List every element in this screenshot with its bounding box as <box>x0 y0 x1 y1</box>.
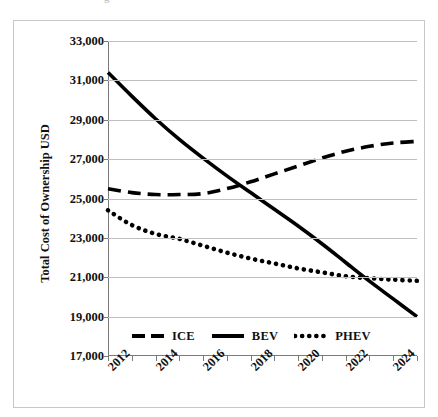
gridline <box>108 199 417 200</box>
plot-area <box>108 41 417 356</box>
line-chart: Total Cost of Ownership USD 33,00031,000… <box>0 0 438 417</box>
legend-label: BEV <box>252 329 278 344</box>
y-axis-tick-label: 17,000 <box>42 350 104 363</box>
gridline <box>108 159 417 160</box>
y-axis-tick-label: 19,000 <box>42 311 104 324</box>
legend-label: PHEV <box>335 329 371 344</box>
y-axis-tick-label: 25,000 <box>42 193 104 206</box>
y-axis-tick <box>103 277 108 278</box>
series-line-ice <box>108 141 417 194</box>
gridline <box>108 80 417 81</box>
gridline <box>108 41 417 42</box>
y-axis-tick <box>103 120 108 121</box>
y-axis-tick-label: 23,000 <box>42 232 104 245</box>
gridline <box>108 238 417 239</box>
y-axis-tick <box>103 238 108 239</box>
series-line-phev <box>108 210 417 280</box>
y-axis-tick-label: 29,000 <box>42 114 104 127</box>
gridline <box>108 277 417 278</box>
y-axis-tick-label: 21,000 <box>42 271 104 284</box>
solid-line-swatch <box>211 331 245 341</box>
legend-item-ice[interactable]: ICE <box>131 329 195 344</box>
gridline <box>108 317 417 318</box>
legend-item-bev[interactable]: BEV <box>211 329 278 344</box>
legend-label: ICE <box>172 329 195 344</box>
y-axis-tick-label: 31,000 <box>42 74 104 87</box>
y-axis-tick <box>103 80 108 81</box>
y-axis-tick <box>103 199 108 200</box>
y-axis-tick <box>103 159 108 160</box>
x-axis-tick-labels: 2012201420162018202020222024 <box>108 356 417 416</box>
y-axis-tick <box>103 317 108 318</box>
legend-item-phev[interactable]: PHEV <box>294 329 371 344</box>
dotted-line-swatch <box>294 331 328 341</box>
y-axis-tick-labels: 33,00031,00029,00027,00025,00023,00021,0… <box>40 0 104 417</box>
chart-legend: ICEBEVPHEV <box>131 325 391 347</box>
y-axis-tick-label: 27,000 <box>42 153 104 166</box>
gridline <box>108 120 417 121</box>
y-axis-tick-label: 33,000 <box>42 35 104 48</box>
y-axis-tick <box>103 41 108 42</box>
dashed-line-swatch <box>131 331 165 341</box>
